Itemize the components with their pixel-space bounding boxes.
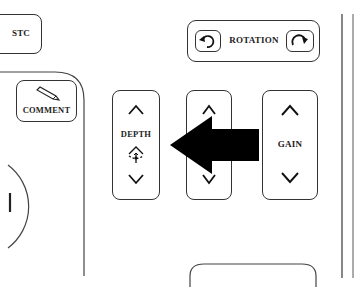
- callout-arrow-left-icon: [0, 0, 362, 287]
